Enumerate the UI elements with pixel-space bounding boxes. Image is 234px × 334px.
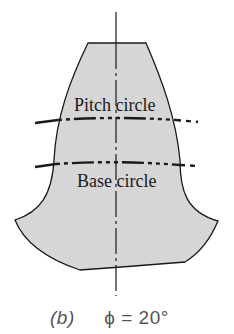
gear-tooth-diagram xyxy=(0,0,234,334)
gear-tooth-figure: Pitch circle Base circle (b) ϕ = 20° xyxy=(0,0,234,334)
pitch-circle-label: Pitch circle xyxy=(74,96,155,114)
caption-part-label: (b) xyxy=(50,307,75,328)
figure-caption: (b) ϕ = 20° xyxy=(50,308,169,327)
caption-pressure-angle: ϕ = 20° xyxy=(104,307,169,328)
base-circle-label: Base circle xyxy=(77,172,156,190)
